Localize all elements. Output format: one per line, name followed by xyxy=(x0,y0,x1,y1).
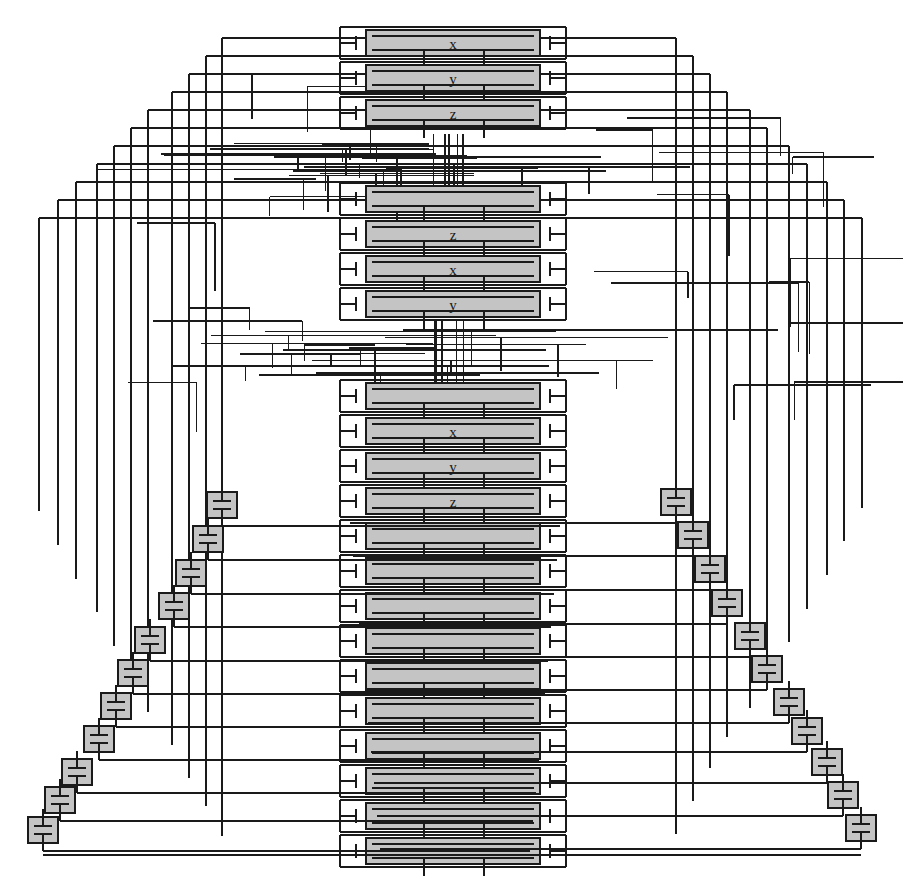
cell-body xyxy=(366,733,540,759)
cell-body xyxy=(366,558,540,584)
layout-svg: xyzzxyxyz xyxy=(0,0,903,888)
cell-label: x xyxy=(449,36,457,52)
cell-body xyxy=(366,768,540,794)
cell-body xyxy=(366,628,540,654)
cell-body xyxy=(366,383,540,409)
cell-body xyxy=(366,698,540,724)
cell-body xyxy=(366,593,540,619)
cell-label: y xyxy=(449,297,457,313)
cell-label: z xyxy=(450,227,457,243)
cell-body xyxy=(366,186,540,212)
cell-label: x xyxy=(449,262,457,278)
cell-label: y xyxy=(449,71,457,87)
cell-body xyxy=(366,523,540,549)
cell-label: x xyxy=(449,424,457,440)
cell-label: z xyxy=(450,106,457,122)
cell-body xyxy=(366,663,540,689)
diagram-canvas: xyzzxyxyz xyxy=(0,0,903,888)
cell-label: y xyxy=(449,459,457,475)
cell-label: z xyxy=(450,494,457,510)
